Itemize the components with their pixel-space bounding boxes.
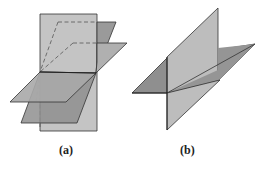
panel-a-figure [10,14,127,131]
caption-b: (b) [180,143,195,158]
planes-diagram [0,0,261,171]
caption-a: (a) [59,143,73,158]
tilted-plane-2-back [96,43,127,73]
panel-b-figure [132,8,255,130]
